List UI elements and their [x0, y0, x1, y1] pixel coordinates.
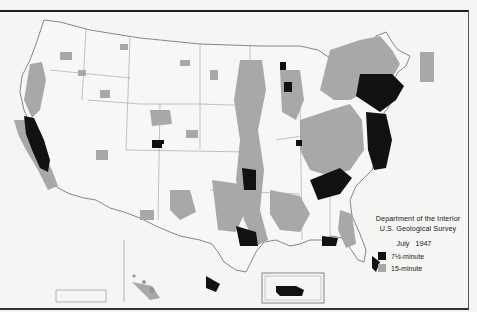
black-swatch-icon [378, 252, 386, 260]
legend-date: July 1947 [360, 239, 468, 248]
agency-name: Department of the Interior [368, 214, 468, 224]
agency-survey: U.S. Geological Survey [368, 224, 468, 234]
legend-item-7-5-minute: 7½-minute [378, 252, 468, 260]
map-legend: Department of the Interior U.S. Geologic… [368, 214, 468, 272]
grey-swatch-icon [378, 264, 386, 272]
legend-item-15-minute: 15-minute [378, 264, 468, 272]
inset-alaska [56, 290, 106, 302]
legend-label: 15-minute [391, 265, 422, 272]
inset-puerto-rico [262, 273, 324, 303]
legend-label: 7½-minute [391, 253, 424, 260]
map-page: Department of the Interior U.S. Geologic… [0, 0, 477, 312]
